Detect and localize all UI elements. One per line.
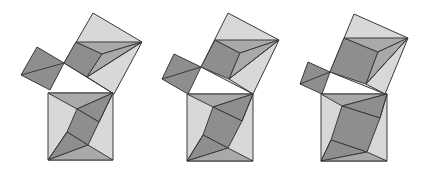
pythagorean-dissection-diagram [0,0,428,173]
figure-3 [300,14,408,161]
figure-2 [162,13,279,161]
small-leg-square [162,54,201,94]
diagram-canvas [0,0,428,173]
figure-1 [21,13,142,160]
